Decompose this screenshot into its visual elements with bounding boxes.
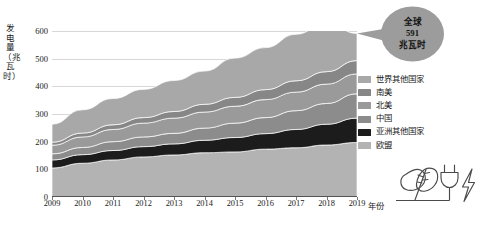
legend-swatch-icon [358, 89, 371, 96]
y-tick-200: 200 [22, 137, 48, 147]
legend-item[interactable]: 南美 [358, 86, 482, 99]
chart-legend: 世界其他国家南美北美中国亚洲其他国家欧盟 [358, 73, 482, 152]
lightning-bolt-icon [463, 169, 475, 202]
x-tick-2017: 2017 [288, 199, 305, 208]
global-total-callout: 全球 591 兆瓦时 [381, 6, 444, 62]
legend-item-label: 中国 [376, 114, 392, 124]
x-tick-2018: 2018 [318, 199, 335, 208]
legend-swatch-icon [358, 142, 371, 149]
callout-line-2: 591 [406, 28, 419, 39]
legend-item[interactable]: 亚洲其他国家 [358, 126, 482, 139]
legend-item-label: 欧盟 [376, 141, 392, 151]
legend-swatch-icon [358, 102, 371, 109]
leaf-icon [401, 168, 438, 200]
power-plug-icon [441, 165, 458, 200]
callout-line-3: 兆瓦时 [399, 40, 426, 51]
callout-line-1: 全球 [404, 17, 422, 28]
stacked-area-series [52, 31, 357, 197]
y-tick-100: 100 [22, 164, 48, 174]
x-tick-2015: 2015 [227, 199, 244, 208]
y-tick-400: 400 [22, 81, 48, 91]
x-tick-2012: 2012 [135, 199, 152, 208]
x-tick-2010: 2010 [74, 199, 91, 208]
callout-text: 全球 591 兆瓦时 [381, 6, 444, 62]
y-tick-300: 300 [22, 109, 48, 119]
legend-swatch-icon [358, 116, 371, 123]
x-tick-2011: 2011 [105, 199, 121, 208]
x-tick-2014: 2014 [196, 199, 213, 208]
legend-swatch-icon [358, 129, 371, 136]
x-tick-2009: 2009 [44, 199, 61, 208]
x-axis-title: 年份 [368, 199, 384, 211]
legend-item-label: 南美 [376, 88, 392, 98]
x-tick-2019: 2019 [349, 199, 366, 208]
x-tick-2016: 2016 [257, 199, 274, 208]
legend-item[interactable]: 世界其他国家 [358, 73, 482, 86]
y-tick-600: 600 [22, 26, 48, 36]
x-tick-2013: 2013 [166, 199, 183, 208]
legend-item-label: 亚洲其他国家 [376, 127, 424, 137]
legend-item-label: 北美 [376, 101, 392, 111]
legend-item[interactable]: 欧盟 [358, 139, 482, 152]
legend-item-label: 世界其他国家 [376, 75, 424, 85]
y-tick-500: 500 [22, 54, 48, 64]
eco-energy-icon-group [396, 156, 482, 216]
y-axis-title: 发电量（兆瓦时） [3, 24, 18, 82]
legend-item[interactable]: 北美 [358, 99, 482, 112]
legend-item[interactable]: 中国 [358, 113, 482, 126]
legend-swatch-icon [358, 76, 371, 83]
chart-figure: 发电量（兆瓦时） 600 500 400 300 200 100 0 20092… [0, 0, 485, 233]
plot-area [52, 31, 357, 197]
